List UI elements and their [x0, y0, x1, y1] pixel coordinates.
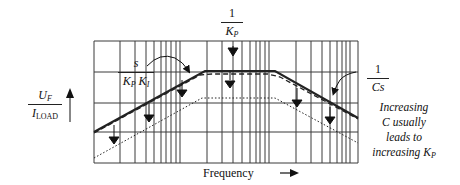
curve-dotted [94, 98, 358, 158]
label-rising-slope: s KP KI [118, 56, 154, 89]
down-arrow-icon [325, 107, 335, 124]
y-axis-label: UF ILOAD [28, 88, 62, 121]
down-arrow-icon [109, 125, 119, 144]
y-axis-arrow-icon [66, 88, 74, 122]
annotation-note: Increasing C usually leads to increasing… [366, 100, 442, 163]
label-falling-slope: 1 Cs [367, 62, 389, 95]
label-flat: 1 KP [221, 6, 243, 39]
down-arrow-icon [292, 88, 302, 107]
x-axis-arrow-icon [280, 169, 299, 177]
down-arrow-icon [228, 46, 238, 56]
x-axis-label: Frequency [203, 166, 254, 181]
